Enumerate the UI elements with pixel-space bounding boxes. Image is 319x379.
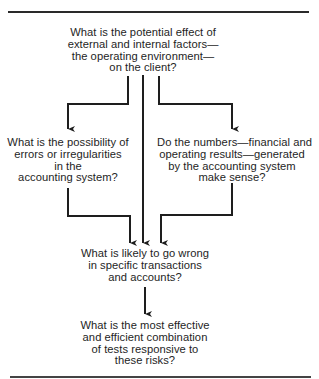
node-line: external and internal factors— [43,39,243,51]
node-line: errors or irregularities [0,149,138,161]
top-rule [8,11,309,13]
arrow-top-to-left [68,76,128,129]
node-line: these risks? [70,355,220,367]
arrow-right-to-middle [161,183,232,243]
node-line: in specific transactions [70,260,220,272]
node-effective-tests: What is the most effective and efficient… [70,320,220,367]
node-numbers-make-sense: Do the numbers—financial and operating r… [157,137,307,184]
node-errors-irregularities: What is the possibility of errors or irr… [0,137,138,184]
node-line: accounting system? [0,172,138,184]
node-line: and accounts? [70,272,220,284]
node-line: on the client? [43,62,243,74]
node-likely-wrong: What is likely to go wrong in specific t… [70,248,220,283]
node-line: make sense? [157,172,307,184]
arrow-top-to-right [159,76,232,129]
node-line: operating results—generated [157,149,307,161]
node-line: and efficient combination [70,332,220,344]
node-operating-environment: What is the potential effect of external… [43,27,243,74]
arrow-left-to-middle [68,188,130,243]
bottom-rule [10,376,311,378]
